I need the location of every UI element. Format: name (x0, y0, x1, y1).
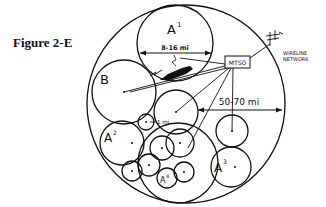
cellular-network-diagram: MTSO WIRELINE NETWORK A 1 B A 2 A 3 A 4 … (0, 0, 326, 207)
mtso-box: MTSO (225, 56, 250, 68)
wireline-tower-icon (266, 30, 283, 46)
label-b: B (100, 72, 109, 87)
label-a3: A (214, 161, 223, 175)
label-a1-sup: 1 (177, 21, 181, 29)
label-a2: A (104, 131, 113, 145)
wireline-label-line2: NETWORK (283, 56, 309, 62)
dimension-50-70mi: 50-70 mi (219, 97, 259, 107)
dimension-8-16mi: 8-16 mi (161, 44, 189, 52)
cell-cluster (138, 123, 218, 203)
mtso-label: MTSO (229, 59, 247, 66)
label-a3-sup: 3 (223, 158, 227, 165)
label-a1: A (167, 22, 176, 37)
cell-a1 (137, 5, 213, 81)
label-a4-sup: 4 (166, 173, 169, 179)
label-a2-sup: 2 (113, 129, 117, 136)
dimension-1mi: 1 mi (157, 119, 170, 125)
